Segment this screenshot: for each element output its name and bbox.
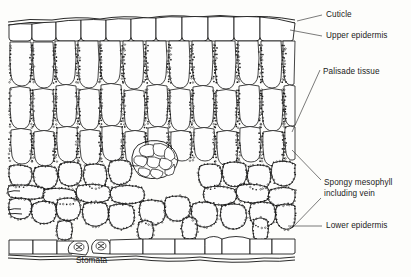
leader-palisade <box>292 70 320 132</box>
label-cuticle: Cuticle <box>326 10 352 20</box>
leaf-cross-section-figure: Cuticle Upper epidermis Palisade tissue … <box>0 0 411 277</box>
label-palisade-tissue: Palisade tissue <box>323 67 380 77</box>
label-spongy-mesophyll-line2: including vein <box>324 189 375 199</box>
label-lower-epidermis: Lower epidermis <box>326 221 388 231</box>
lower-epidermis-layer <box>8 237 295 263</box>
label-stomata: Stomata <box>76 256 107 266</box>
label-spongy-mesophyll: Spongy mesophyll <box>324 178 393 188</box>
label-upper-epidermis: Upper epidermis <box>326 31 388 41</box>
leaf-diagram-svg <box>0 0 411 277</box>
leader-upper-epidermis <box>290 30 322 36</box>
leader-cuticle <box>297 15 322 21</box>
leader-spongy <box>292 150 321 180</box>
